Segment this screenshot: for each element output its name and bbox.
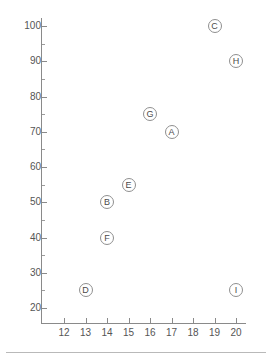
data-point-label: D <box>80 284 92 296</box>
y-tick-label: 50 <box>13 197 41 207</box>
data-point-label: H <box>230 55 242 67</box>
x-tick-mark <box>215 318 216 323</box>
data-point-label: F <box>101 232 113 244</box>
data-point-f[interactable]: F <box>100 231 114 245</box>
y-minor-tick-mark <box>42 255 45 256</box>
y-tick-mark <box>42 61 47 62</box>
y-tick-mark <box>42 202 47 203</box>
data-point-g[interactable]: G <box>143 107 157 121</box>
x-tick-label: 16 <box>138 327 162 338</box>
x-tick-label: 15 <box>117 327 141 338</box>
y-tick-mark <box>42 167 47 168</box>
x-tick-label: 14 <box>95 327 119 338</box>
bottom-divider-rule <box>6 352 266 353</box>
y-tick-label: 40 <box>13 233 41 243</box>
x-tick-label: 20 <box>224 327 248 338</box>
y-minor-tick-mark <box>42 114 45 115</box>
data-point-label: B <box>101 196 113 208</box>
y-minor-tick-mark <box>42 79 45 80</box>
y-tick-mark <box>42 97 47 98</box>
data-point-b[interactable]: B <box>100 195 114 209</box>
plot-area <box>41 18 245 323</box>
y-tick-label: 20 <box>13 303 41 313</box>
y-minor-tick-mark <box>42 220 45 221</box>
y-minor-tick-mark <box>42 149 45 150</box>
y-tick-mark <box>42 238 47 239</box>
y-tick-mark <box>42 26 47 27</box>
data-point-label: A <box>166 126 178 138</box>
x-tick-mark <box>107 318 108 323</box>
y-tick-label: 70 <box>13 127 41 137</box>
x-tick-label: 12 <box>52 327 76 338</box>
y-tick-mark <box>42 308 47 309</box>
x-tick-mark <box>150 318 151 323</box>
y-axis-line <box>41 18 42 324</box>
data-point-i[interactable]: I <box>229 283 243 297</box>
x-tick-mark <box>193 318 194 323</box>
y-tick-mark <box>42 273 47 274</box>
y-tick-mark <box>42 132 47 133</box>
y-minor-tick-mark <box>42 290 45 291</box>
y-tick-label: 100 <box>13 21 41 31</box>
data-point-label: C <box>209 20 221 32</box>
x-tick-mark <box>64 318 65 323</box>
data-point-h[interactable]: H <box>229 54 243 68</box>
data-point-label: I <box>230 284 242 296</box>
data-point-e[interactable]: E <box>122 178 136 192</box>
y-tick-label: 60 <box>13 162 41 172</box>
x-tick-mark <box>86 318 87 323</box>
x-tick-mark <box>172 318 173 323</box>
scatter-plot-figure: 2030405060708090100 121314151617181920 A… <box>0 0 272 363</box>
x-axis-line <box>41 323 246 324</box>
x-tick-label: 18 <box>181 327 205 338</box>
y-minor-tick-mark <box>42 44 45 45</box>
data-point-label: G <box>144 108 156 120</box>
y-tick-label: 80 <box>13 92 41 102</box>
x-tick-label: 13 <box>74 327 98 338</box>
x-tick-label: 17 <box>160 327 184 338</box>
x-tick-mark <box>236 318 237 323</box>
x-tick-label: 19 <box>203 327 227 338</box>
data-point-c[interactable]: C <box>208 19 222 33</box>
data-point-d[interactable]: D <box>79 283 93 297</box>
data-point-label: E <box>123 179 135 191</box>
x-tick-mark <box>129 318 130 323</box>
y-minor-tick-mark <box>42 185 45 186</box>
y-tick-label: 90 <box>13 56 41 66</box>
data-point-a[interactable]: A <box>165 125 179 139</box>
y-tick-label: 30 <box>13 268 41 278</box>
